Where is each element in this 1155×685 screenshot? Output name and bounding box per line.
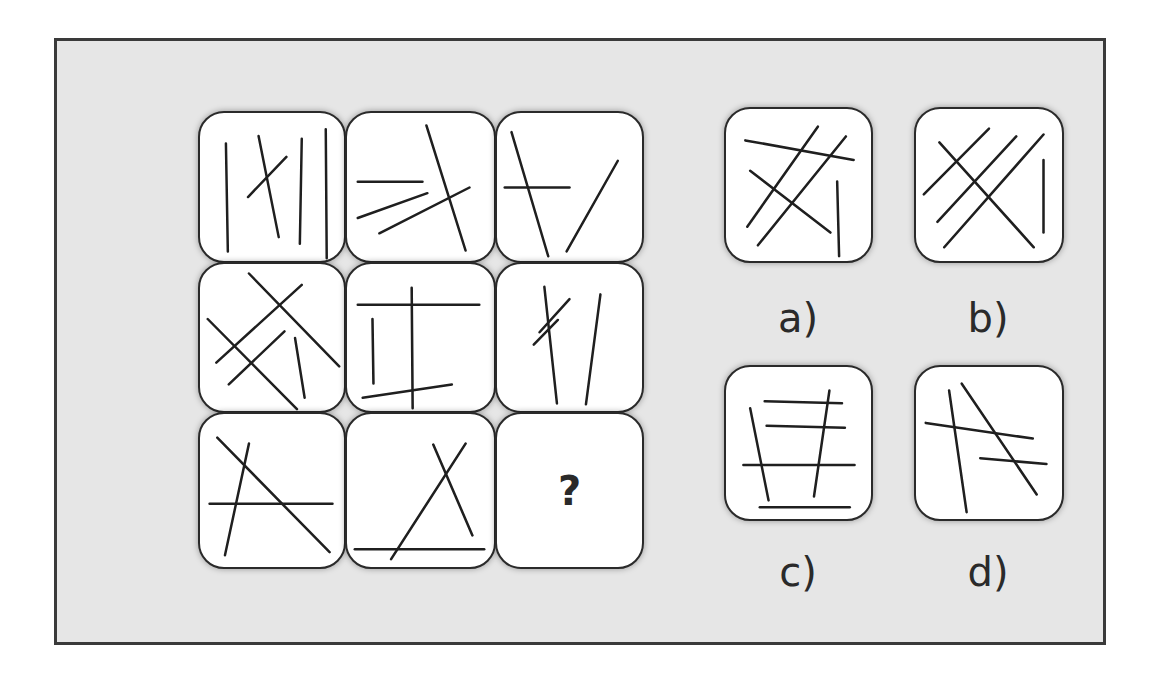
line-figure: [200, 113, 344, 261]
option-label[interactable]: a): [723, 298, 873, 338]
line-figure: [347, 113, 494, 261]
grid-tile-r2c3: [495, 262, 644, 413]
grid-tile-r2c2: [345, 262, 496, 413]
line-segment: [939, 142, 1033, 247]
line-segment: [745, 140, 853, 160]
line-segment: [765, 401, 842, 403]
line-segment: [217, 438, 329, 553]
option-label[interactable]: b): [913, 298, 1063, 338]
answer-option-c[interactable]: [724, 365, 873, 521]
line-segment: [226, 144, 228, 252]
line-figure: [726, 367, 871, 519]
option-label[interactable]: d): [913, 552, 1063, 592]
grid-tile-r1c1: [198, 111, 346, 263]
line-segment: [567, 161, 618, 252]
line-segment: [295, 338, 305, 398]
line-figure: [347, 264, 494, 411]
answer-option-b[interactable]: [914, 107, 1064, 263]
line-segment: [512, 132, 549, 256]
question-mark: ?: [497, 414, 642, 567]
line-figure: [916, 109, 1062, 261]
line-figure: [347, 414, 494, 567]
line-figure: [497, 113, 642, 261]
line-segment: [767, 426, 845, 428]
line-segment: [259, 136, 279, 237]
line-segment: [391, 444, 465, 559]
line-segment: [949, 391, 967, 513]
line-figure: [916, 367, 1062, 519]
grid-tile-r1c2: [345, 111, 496, 263]
line-figure: [200, 264, 344, 411]
answer-option-d[interactable]: [914, 365, 1064, 521]
line-segment: [544, 287, 557, 404]
line-segment: [326, 129, 327, 258]
line-segment: [926, 423, 1033, 439]
line-segment: [229, 331, 285, 384]
line-segment: [300, 139, 302, 244]
line-segment: [962, 384, 1037, 495]
line-segment: [426, 125, 465, 250]
grid-tile-r3c2: [345, 412, 496, 569]
line-segment: [248, 157, 286, 197]
line-segment: [750, 171, 830, 233]
option-label[interactable]: c): [723, 552, 873, 592]
line-segment: [225, 444, 249, 556]
line-figure: [726, 109, 871, 261]
grid-tile-r1c3: [495, 111, 644, 263]
missing-tile[interactable]: ?: [495, 412, 644, 569]
grid-tile-r2c1: [198, 262, 346, 413]
line-figure: [497, 264, 642, 411]
line-segment: [750, 408, 768, 500]
line-segment: [216, 285, 301, 363]
grid-tile-r3c1: [198, 412, 346, 569]
line-segment: [540, 299, 570, 332]
line-segment: [372, 319, 373, 383]
line-segment: [944, 134, 1043, 247]
line-segment: [586, 294, 601, 404]
line-figure: [200, 414, 344, 567]
line-segment: [433, 445, 472, 536]
answer-option-a[interactable]: [724, 107, 873, 263]
line-segment: [837, 182, 839, 257]
line-segment: [814, 391, 829, 497]
line-segment: [363, 384, 452, 397]
